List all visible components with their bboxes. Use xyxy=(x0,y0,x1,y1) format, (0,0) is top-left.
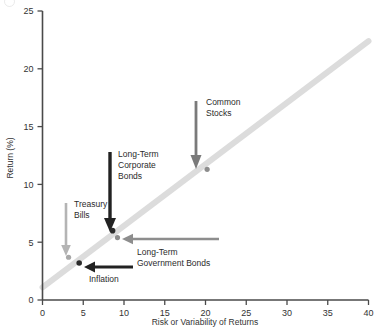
corporate-bonds-arrow-icon xyxy=(104,152,116,232)
y-tick-label: 10 xyxy=(23,180,33,190)
trendline-group xyxy=(43,41,369,287)
y-tick-label: 25 xyxy=(23,6,33,16)
y-tick-label: 20 xyxy=(23,64,33,74)
government-bonds-label-line2: Government Bonds xyxy=(137,258,210,268)
common-stocks-arrow-icon xyxy=(191,101,202,169)
government-bonds-arrow-icon xyxy=(122,234,219,244)
inflation-label: Inflation xyxy=(89,274,119,284)
y-axis-title: Return (%) xyxy=(5,137,15,178)
x-axis-ticks: 0510152025303540 xyxy=(40,300,374,318)
treasury-bills-label-line2: Bills xyxy=(74,210,90,220)
y-tick-label: 0 xyxy=(28,295,33,305)
treasury-bills-arrow-icon xyxy=(61,203,71,256)
x-tick-label: 35 xyxy=(323,308,333,318)
x-axis-title: Risk or Variability of Returns xyxy=(152,317,259,327)
y-axis-ticks: 0510152025 xyxy=(23,6,42,305)
x-tick-label: 10 xyxy=(119,308,129,318)
x-tick-label: 30 xyxy=(282,308,292,318)
inflation-arrow-icon xyxy=(84,262,133,273)
y-tick-label: 5 xyxy=(28,238,33,248)
trendline xyxy=(43,41,369,287)
x-tick-label: 40 xyxy=(363,308,373,318)
corporate-bonds-label-line2: Corporate xyxy=(118,160,156,170)
axes-group xyxy=(43,11,369,300)
corporate-bonds-label-line3: Bonds xyxy=(118,171,142,181)
data-point xyxy=(205,167,210,172)
common-stocks-label-line1: Common xyxy=(206,97,241,107)
x-tick-label: 0 xyxy=(40,308,45,318)
x-tick-label: 5 xyxy=(81,308,86,318)
data-point xyxy=(115,235,120,240)
annotation-labels: Treasury Bills Long-Term Corporate Bonds… xyxy=(74,97,241,284)
data-point xyxy=(66,255,71,260)
scatter-plot-canvas: 0510152025 0510152025303540 Risk or Vari… xyxy=(0,0,379,332)
government-bonds-label-line1: Long-Term xyxy=(137,247,178,257)
common-stocks-label-line2: Stocks xyxy=(206,108,232,118)
y-tick-label: 15 xyxy=(23,122,33,132)
chart-figure: 0510152025 0510152025303540 Risk or Vari… xyxy=(0,0,379,332)
data-point xyxy=(110,228,116,234)
treasury-bills-label-line1: Treasury xyxy=(74,199,108,209)
data-point xyxy=(76,260,82,266)
corporate-bonds-label-line1: Long-Term xyxy=(118,149,159,159)
